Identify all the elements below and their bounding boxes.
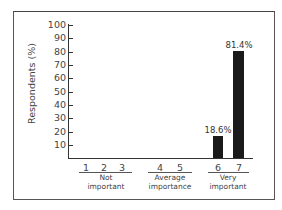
group-label-line: importance xyxy=(140,183,200,192)
bar-7-value-label: 81.4% xyxy=(224,40,254,50)
y-tick-label: 30 xyxy=(44,113,66,123)
y-tick xyxy=(68,118,73,119)
y-axis-label: Respondents (%) xyxy=(26,39,37,129)
bar-6-value-label: 18.6% xyxy=(203,125,233,135)
y-tick-label: 60 xyxy=(44,73,66,83)
y-tick-label: 20 xyxy=(44,127,66,137)
y-axis-line xyxy=(68,24,69,158)
group-label-very-important: Very important xyxy=(198,174,258,191)
y-tick xyxy=(68,65,73,66)
y-tick xyxy=(68,105,73,106)
y-tick-label: 10 xyxy=(44,140,66,150)
y-tick-label: 90 xyxy=(44,33,66,43)
group-label-line: important xyxy=(76,183,136,192)
group-label-line: important xyxy=(198,183,258,192)
group-label-not-important: Not important xyxy=(76,174,136,191)
y-tick xyxy=(68,38,73,39)
bar-7 xyxy=(233,51,244,158)
x-axis-line xyxy=(68,158,253,159)
y-tick xyxy=(68,52,73,53)
y-tick xyxy=(68,92,73,93)
y-tick-label: 70 xyxy=(44,60,66,70)
y-tick-label: 80 xyxy=(44,47,66,57)
y-tick xyxy=(68,78,73,79)
group-label-average-importance: Average importance xyxy=(140,174,200,191)
y-tick-label: 50 xyxy=(44,87,66,97)
y-tick xyxy=(68,145,73,146)
y-tick xyxy=(68,25,73,26)
bar-6 xyxy=(213,136,223,158)
y-tick-label: 40 xyxy=(44,100,66,110)
y-tick-label: 100 xyxy=(44,20,66,30)
y-tick xyxy=(68,132,73,133)
